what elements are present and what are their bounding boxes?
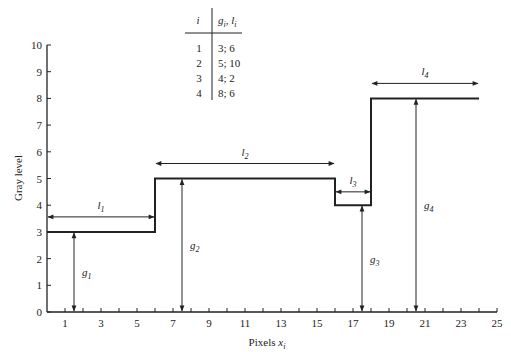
table-cell-i: 4 (196, 87, 202, 99)
g3-label: g3 (370, 253, 380, 268)
x-tick-label: 17 (348, 317, 360, 329)
table-cell-gl: 4; 2 (218, 72, 235, 84)
l4-label: l4 (421, 65, 428, 80)
y-tick-label: 6 (37, 146, 43, 158)
y-tick-label: 4 (37, 199, 43, 211)
data-table: igi, li13; 625; 1034; 248; 6 (185, 8, 242, 100)
x-tick-label: 21 (420, 317, 431, 329)
y-tick-label: 0 (37, 306, 43, 318)
y-tick-label: 10 (31, 39, 43, 51)
table-cell-gl: 8; 6 (218, 87, 235, 99)
g4-label: g4 (424, 199, 434, 214)
table-header-gl: gi, li (218, 14, 237, 29)
table-cell-gl: 5; 10 (218, 57, 241, 69)
x-tick-label: 19 (384, 317, 396, 329)
y-tick-label: 8 (37, 92, 43, 104)
table-cell-i: 1 (196, 42, 202, 54)
x-tick-label: 25 (492, 317, 504, 329)
x-tick-label: 9 (206, 317, 212, 329)
table-cell-i: 2 (196, 57, 202, 69)
x-tick-label: 15 (312, 317, 324, 329)
table-cell-i: 3 (196, 72, 202, 84)
x-tick-label: 23 (456, 317, 468, 329)
y-tick-label: 5 (37, 173, 43, 185)
x-tick-label: 13 (276, 317, 288, 329)
g2-label: g2 (190, 239, 200, 254)
x-tick-label: 3 (98, 317, 104, 329)
table-cell-gl: 3; 6 (218, 42, 235, 54)
x-axis-label: Pixels xi (249, 336, 286, 351)
step-series (47, 98, 479, 232)
y-tick-label: 3 (37, 226, 43, 238)
annotations: l1g1l2g2l3g3l4g4 (48, 65, 478, 311)
y-tick-label: 2 (37, 253, 43, 265)
x-tick-label: 11 (240, 317, 251, 329)
x-tick-label: 1 (62, 317, 68, 329)
step-chart: 012345678910135791113151719212325 l1g1l2… (0, 0, 511, 352)
l2-label: l2 (241, 146, 248, 161)
l3-label: l3 (349, 174, 356, 189)
y-axis-label: Gray level (12, 155, 24, 201)
axes: 012345678910135791113151719212325 (31, 39, 503, 329)
g1-label: g1 (82, 266, 92, 281)
y-tick-label: 9 (37, 66, 43, 78)
y-tick-label: 7 (37, 119, 43, 131)
x-tick-label: 7 (170, 317, 176, 329)
y-tick-label: 1 (37, 279, 43, 291)
l1-label: l1 (97, 199, 104, 214)
table-header-i: i (196, 14, 199, 26)
step-line (47, 98, 479, 232)
x-tick-label: 5 (134, 317, 140, 329)
